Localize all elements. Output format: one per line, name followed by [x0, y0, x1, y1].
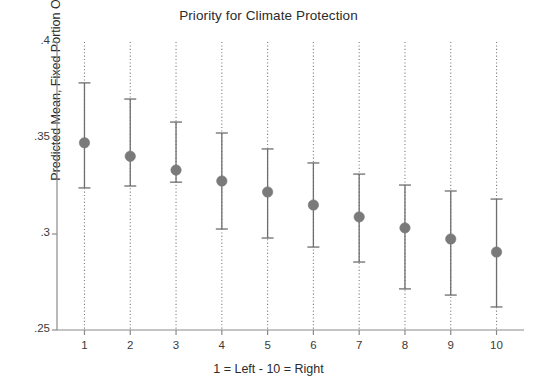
x-axis-tick-label: 5 [253, 339, 283, 351]
data-point-marker [262, 187, 272, 197]
data-point-marker [400, 223, 410, 233]
y-axis-tick-label: .25 [16, 322, 50, 334]
x-axis-tick-label: 9 [436, 339, 466, 351]
y-axis-tick-label: .3 [16, 226, 50, 238]
chart-figure: Priority for Climate Protection Predicte… [0, 0, 537, 387]
x-axis-tick-label: 1 [69, 339, 99, 351]
plot-area [0, 0, 537, 387]
data-point-marker [217, 176, 227, 186]
x-axis-tick-label: 6 [298, 339, 328, 351]
data-point-marker [446, 234, 456, 244]
x-axis-tick-label: 8 [390, 339, 420, 351]
x-axis-tick-label: 4 [207, 339, 237, 351]
data-point-marker [491, 247, 501, 257]
x-axis-tick-label: 10 [482, 339, 512, 351]
data-point-marker [125, 151, 135, 161]
x-axis-tick-label: 7 [344, 339, 374, 351]
y-axis-tick-label: .4 [16, 34, 50, 46]
data-point-marker [354, 212, 364, 222]
data-point-marker [308, 200, 318, 210]
x-axis-tick-label: 3 [161, 339, 191, 351]
x-axis-tick-label: 2 [115, 339, 145, 351]
y-axis-tick-label: .35 [16, 130, 50, 142]
x-axis-label: 1 = Left - 10 = Right [0, 362, 537, 376]
data-point-marker [171, 165, 181, 175]
data-point-marker [79, 138, 89, 148]
